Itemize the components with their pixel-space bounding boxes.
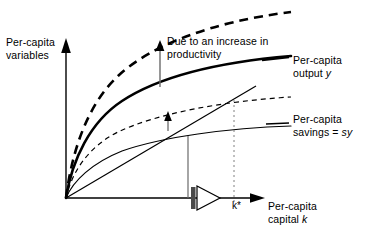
productivity-annotation: Due to an increase in productivity xyxy=(167,35,268,60)
output-series-label: Per-capita output y xyxy=(293,54,342,79)
savings-series-label-line1: Per-capita xyxy=(293,113,352,126)
y-axis-title-line1: Per-capita xyxy=(6,36,55,49)
curve-savings-solid xyxy=(66,126,291,198)
transition-marker-bar xyxy=(191,187,196,209)
x-axis-title: Per-capita capital k xyxy=(268,200,317,225)
output-series-label-line1: Per-capita xyxy=(293,54,342,67)
y-axis-title-line2: variables xyxy=(6,49,55,62)
curve-output-solid xyxy=(66,56,291,198)
y-axis-arrowhead xyxy=(61,38,71,53)
steady-state-label: k* xyxy=(232,200,241,213)
label-leaders-group xyxy=(262,57,289,124)
savings-series-label-line2: savings = sy xyxy=(293,126,352,139)
output-series-label-line2: output y xyxy=(293,67,342,80)
x-axis-title-line2: capital k xyxy=(268,213,317,226)
productivity-annotation-line1: Due to an increase in xyxy=(167,35,268,48)
x-axis-arrowhead xyxy=(250,193,265,203)
savings-series-label: Per-capita savings = sy xyxy=(293,113,352,138)
solow-model-diagram: Per-capita variables Per-capita capital … xyxy=(0,0,376,245)
savings-label-leader xyxy=(266,123,289,124)
x-axis-title-line1: Per-capita xyxy=(268,200,317,213)
transition-marker-triangle-icon xyxy=(197,186,220,210)
transition-marker-group xyxy=(191,186,220,210)
productivity-shift-arrow-head xyxy=(156,40,165,51)
productivity-annotation-line2: productivity xyxy=(167,48,268,61)
y-axis-title: Per-capita variables xyxy=(6,36,55,61)
curve-savings-new-dashed xyxy=(66,97,291,198)
line-breakeven-investment xyxy=(66,86,256,198)
